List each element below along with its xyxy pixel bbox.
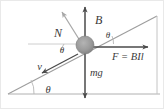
weight-label: mg [90, 67, 103, 78]
angle-label-base: θ [45, 84, 50, 95]
applied-force-label: F = BIl [111, 51, 144, 62]
velocity-label: v [37, 61, 42, 72]
angle-label-center-left: θ [60, 45, 65, 55]
diagram-canvas: N B mg F = BIl v θ θ θ [0, 0, 164, 109]
normal-force-label: N [53, 26, 63, 40]
angle-label-top-right: θ [106, 30, 111, 40]
magnetic-field-label: B [95, 13, 103, 27]
physics-diagram-figure: N B mg F = BIl v θ θ θ [0, 0, 164, 109]
conductor-rod-block [76, 36, 94, 54]
